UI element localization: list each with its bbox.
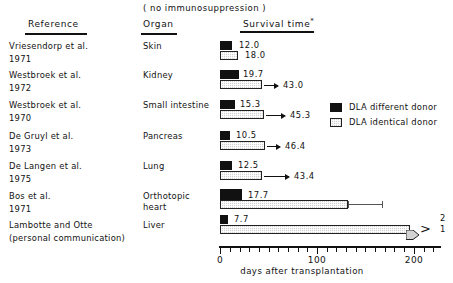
x-axis-tick: [269, 247, 270, 252]
bar-dark-liver: [220, 215, 228, 224]
bar-value-dark-lung: 12.5: [238, 160, 259, 170]
arrow-lung: [264, 176, 289, 177]
bar-value-light-pancreas: 46.4: [285, 141, 306, 151]
bar-dark-small-intestine: [220, 100, 235, 109]
bar-light-kidney: [220, 80, 262, 89]
x-axis-tick: [394, 247, 395, 252]
x-axis-tick: [240, 247, 241, 252]
bar-dark-skin: [220, 41, 232, 50]
bar-value-light-lung: 43.4: [294, 171, 315, 181]
bar-value-dark-pancreas: 10.5: [236, 130, 257, 140]
x-axis-tick: [220, 247, 221, 254]
bar-value-dark-liver: 7.7: [234, 214, 249, 224]
x-axis-tick: [278, 247, 279, 252]
bar-value-light-kidney: 43.0: [283, 80, 304, 90]
x-axis-tick: [365, 247, 366, 252]
x-axis-tick: [298, 247, 299, 252]
x-axis-tick-label: 200: [405, 255, 424, 265]
bar-light-liver: [220, 225, 410, 234]
edge-annotation-bottom: 1: [440, 224, 445, 234]
edge-annotation-top: 2: [440, 213, 445, 223]
bar-value-dark-small-intestine: 15.3: [240, 99, 261, 109]
bar-dark-lung: [220, 161, 232, 170]
x-axis-tick-label: 0: [217, 255, 223, 265]
bar-value-dark-orthotopic-heart: 17.7: [248, 190, 269, 200]
x-axis-tick: [414, 247, 415, 254]
x-axis-tick: [230, 247, 231, 252]
arrow-pancreas: [267, 146, 280, 147]
x-axis-tick-label: 100: [308, 255, 327, 265]
bar-value-dark-skin: 12.0: [239, 40, 260, 50]
bar-plot-area: 12.0 18.0 19.7 43.0 15.3 45.3 10.5 46.4 …: [0, 0, 453, 283]
greater-than-icon: >: [420, 222, 431, 235]
x-axis-tick: [307, 247, 308, 252]
range-line-orthotopic-heart: [348, 204, 383, 205]
bar-value-light-skin: 18.0: [245, 50, 266, 60]
x-axis-tick: [404, 247, 405, 252]
x-axis-tick: [433, 247, 434, 252]
arrow-small-intestine: [266, 115, 285, 116]
bar-light-orthotopic-heart: [220, 200, 348, 209]
x-axis-tick: [375, 247, 376, 252]
bar-dark-kidney: [220, 70, 239, 79]
x-axis-tick: [327, 247, 328, 252]
x-axis-tick: [336, 247, 337, 252]
x-axis-tick: [259, 247, 260, 252]
x-axis-tick: [288, 247, 289, 252]
legend-swatch-hatched-icon: [330, 118, 342, 127]
arrow-kidney: [264, 85, 278, 86]
legend-label-dla-identical-donor: DLA identical donor: [349, 117, 437, 127]
x-axis-tick: [249, 247, 250, 252]
bar-light-small-intestine: [220, 110, 264, 119]
bar-dark-pancreas: [220, 131, 230, 140]
x-axis-title: days after transplantation: [240, 266, 364, 276]
bar-dark-orthotopic-heart: [220, 189, 242, 200]
bar-light-pancreas: [220, 141, 265, 150]
x-axis-line: [219, 246, 441, 248]
x-axis-tick: [385, 247, 386, 252]
x-axis-tick: [424, 247, 425, 252]
legend-swatch-dark-icon: [330, 103, 342, 112]
bar-light-lung: [220, 171, 262, 180]
figure-survival-time: ( no immunosuppression ) Reference Organ…: [0, 0, 453, 283]
range-cap-left: [348, 201, 349, 208]
x-axis-tick: [346, 247, 347, 252]
x-axis-tick: [317, 247, 318, 254]
x-axis-tick: [356, 247, 357, 252]
legend-label-dla-different-donor: DLA different donor: [349, 102, 437, 112]
bar-value-dark-kidney: 19.7: [243, 69, 264, 79]
bar-arrowhead-liver: [406, 225, 420, 244]
range-cap-right: [382, 201, 383, 208]
bar-value-light-small-intestine: 45.3: [290, 110, 311, 120]
bar-light-skin: [220, 51, 238, 60]
